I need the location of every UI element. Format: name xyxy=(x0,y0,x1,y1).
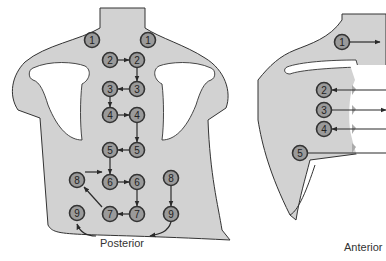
posterior-point-4: 4 xyxy=(130,108,145,123)
posterior-point-3: 3 xyxy=(103,82,118,97)
posterior-point-4: 4 xyxy=(103,108,118,123)
posterior-point-5: 5 xyxy=(130,143,145,158)
posterior-point-5: 5 xyxy=(103,143,118,158)
svg-text:3: 3 xyxy=(321,105,327,116)
svg-text:6: 6 xyxy=(134,177,140,188)
svg-text:3: 3 xyxy=(134,84,140,95)
svg-text:5: 5 xyxy=(107,145,113,156)
posterior-point-2: 2 xyxy=(130,53,145,68)
posterior-point-1: 1 xyxy=(85,33,100,48)
svg-text:1: 1 xyxy=(89,35,95,46)
anterior-point-5: 5 xyxy=(293,146,308,161)
posterior-point-3: 3 xyxy=(130,82,145,97)
posterior-caption: Posterior xyxy=(100,237,144,249)
posterior-point-9: 9 xyxy=(164,207,179,222)
posterior-point-6: 6 xyxy=(103,175,118,190)
posterior-point-7: 7 xyxy=(103,207,118,222)
svg-text:6: 6 xyxy=(107,177,113,188)
anterior-caption: Anterior xyxy=(344,241,383,253)
svg-text:2: 2 xyxy=(134,55,140,66)
posterior-point-1: 1 xyxy=(141,33,156,48)
svg-text:7: 7 xyxy=(134,209,140,220)
svg-text:5: 5 xyxy=(134,145,140,156)
posterior-point-2: 2 xyxy=(103,53,118,68)
posterior-torso xyxy=(12,8,230,240)
svg-text:4: 4 xyxy=(107,110,113,121)
svg-text:5: 5 xyxy=(297,148,303,159)
svg-text:1: 1 xyxy=(145,35,151,46)
posterior-point-8: 8 xyxy=(164,171,179,186)
svg-text:9: 9 xyxy=(74,208,80,219)
svg-text:4: 4 xyxy=(134,110,140,121)
posterior-point-9: 9 xyxy=(70,206,85,221)
svg-text:2: 2 xyxy=(321,85,327,96)
posterior-point-7: 7 xyxy=(130,207,145,222)
svg-text:3: 3 xyxy=(107,84,113,95)
anterior-point-4: 4 xyxy=(317,122,332,137)
anterior-point-2: 2 xyxy=(317,83,332,98)
posterior-point-8: 8 xyxy=(70,173,85,188)
svg-text:8: 8 xyxy=(74,175,80,186)
svg-text:8: 8 xyxy=(168,173,174,184)
svg-text:4: 4 xyxy=(321,124,327,135)
posterior-point-6: 6 xyxy=(130,175,145,190)
anterior-point-3: 3 xyxy=(317,103,332,118)
svg-text:7: 7 xyxy=(107,209,113,220)
acupressure-diagram: 11223344558668977912345 xyxy=(0,0,386,261)
svg-text:2: 2 xyxy=(107,55,113,66)
svg-text:9: 9 xyxy=(168,209,174,220)
anterior-point-1: 1 xyxy=(335,35,350,50)
svg-text:1: 1 xyxy=(339,37,345,48)
